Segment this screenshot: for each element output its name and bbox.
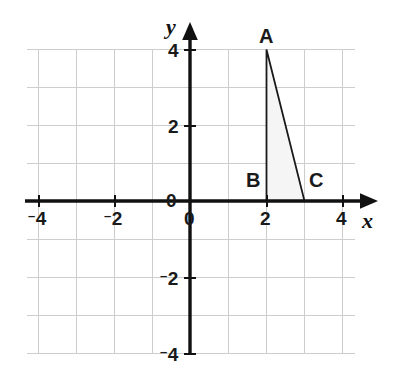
minus-sign-icon: –: [104, 208, 111, 223]
x-tick-label--2: –2: [104, 209, 122, 228]
plot-canvas: [0, 0, 399, 384]
minus-sign-icon: –: [28, 208, 35, 223]
minus-sign-icon: –: [160, 344, 167, 359]
x-tick-label-2: 2: [260, 209, 271, 228]
x-tick-label--4: –4: [28, 209, 46, 228]
x-tick-label-4: 4: [336, 209, 347, 228]
coordinate-plane-figure: –4 –2 0 2 4 4 2 0 –2 –4 x y A B C: [0, 0, 399, 384]
x-tick-label-0: 0: [184, 209, 195, 228]
minus-sign-icon: –: [160, 268, 167, 283]
y-tick-label-0: 0: [166, 191, 177, 210]
vertex-label-c: C: [309, 170, 323, 190]
x-axis-label: x: [362, 210, 373, 232]
vertex-label-b: B: [246, 170, 260, 190]
y-tick-label-2: 2: [168, 117, 179, 136]
y-tick-label--2: –2: [160, 269, 178, 288]
vertex-label-a: A: [259, 26, 273, 46]
y-tick-label--4: –4: [160, 345, 178, 364]
y-axis-label: y: [166, 16, 176, 38]
y-axis-arrowhead: [182, 22, 198, 40]
x-axis-arrowhead: [360, 193, 378, 209]
y-tick-label-4: 4: [168, 41, 179, 60]
